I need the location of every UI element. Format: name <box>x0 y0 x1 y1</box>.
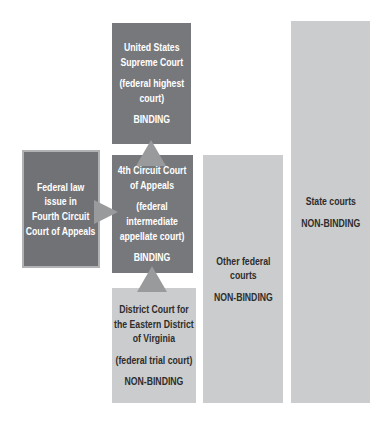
supreme-court-type: (federal highest court) <box>112 76 191 105</box>
fourth-circuit-binding-status: BINDING <box>112 250 193 265</box>
district-court-type: (federal trial court) <box>112 353 196 368</box>
supreme-court-name: United States Supreme Court <box>112 40 191 69</box>
other-federal-courts-box: Other federal courts NON-BINDING <box>203 155 283 403</box>
district-court-name: District Court for the Eastern District … <box>112 302 196 346</box>
other-federal-courts-name: Other federal courts <box>203 254 283 283</box>
fourth-circuit-name: 4th Circuit Court of Appeals <box>112 163 193 192</box>
fourth-circuit-box: 4th Circuit Court of Appeals (federal in… <box>112 155 193 273</box>
other-federal-courts-binding-status: NON-BINDING <box>203 290 283 305</box>
arrow-up-icon <box>136 140 166 166</box>
court-hierarchy-diagram: United States Supreme Court (federal hig… <box>0 0 385 424</box>
state-courts-name: State courts <box>291 194 370 209</box>
fourth-circuit-type: (federal intermediate appellate court) <box>112 199 193 243</box>
federal-law-issue-box: Federal law issue in Fourth Circuit Cour… <box>22 150 100 268</box>
arrow-up-icon <box>137 266 167 292</box>
state-courts-box: State courts NON-BINDING <box>291 21 370 403</box>
district-court-binding-status: NON-BINDING <box>112 374 196 389</box>
supreme-court-box: United States Supreme Court (federal hig… <box>112 23 191 144</box>
supreme-court-binding-status: BINDING <box>112 112 191 127</box>
federal-law-issue-label: Federal law issue in Fourth Circuit Cour… <box>24 180 98 238</box>
state-courts-binding-status: NON-BINDING <box>291 216 370 231</box>
arrow-right-icon <box>94 200 118 224</box>
district-court-box: District Court for the Eastern District … <box>112 288 196 403</box>
